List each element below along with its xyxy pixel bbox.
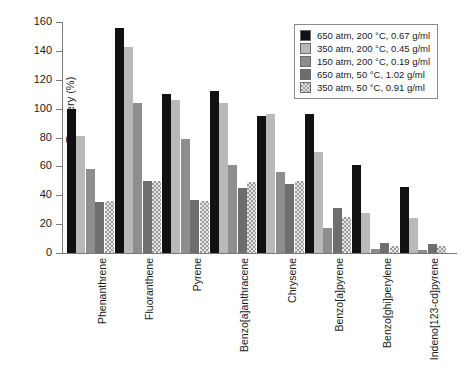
bar xyxy=(371,249,380,253)
y-axis-tick-label-wrap: 0 xyxy=(0,247,52,258)
bar xyxy=(323,228,332,253)
bar xyxy=(305,114,314,253)
bar xyxy=(276,172,285,253)
bar xyxy=(190,200,199,253)
bar xyxy=(352,165,361,253)
bar xyxy=(228,165,237,253)
x-axis-label: Fluoranthene xyxy=(143,258,155,320)
legend-swatch-icon xyxy=(300,30,311,41)
y-axis-tick-label-wrap: 160 xyxy=(0,16,52,27)
recovery-bar-chart: Recovery (%) 020406080100120140160 Phena… xyxy=(0,0,466,375)
y-axis-tick-label: 160 xyxy=(22,16,52,27)
bar xyxy=(86,169,95,253)
chart-legend: 650 atm, 200 °C, 0.67 g/ml350 atm, 200 °… xyxy=(294,24,438,99)
y-axis-tick-label: 140 xyxy=(22,45,52,56)
legend-item: 350 atm, 50 °C, 0.91 g/ml xyxy=(300,81,430,94)
legend-label: 150 atm, 200 °C, 0.19 g/ml xyxy=(317,56,430,67)
bar xyxy=(333,208,342,253)
legend-label: 350 atm, 200 °C, 0.45 g/ml xyxy=(317,43,430,54)
bar xyxy=(437,246,446,253)
y-axis-tick-label-wrap: 80 xyxy=(0,132,52,143)
bar xyxy=(285,184,294,253)
bar xyxy=(314,152,323,253)
bar xyxy=(418,250,427,253)
bar xyxy=(171,100,180,253)
y-axis-tick-label: 20 xyxy=(22,218,52,229)
legend-swatch-icon xyxy=(300,69,311,80)
bar xyxy=(219,103,228,253)
bar xyxy=(257,116,266,253)
y-axis-tick-label-wrap: 60 xyxy=(0,160,52,171)
bar xyxy=(95,202,104,253)
legend-label: 650 atm, 50 °C, 1.02 g/ml xyxy=(317,69,425,80)
bar xyxy=(124,47,133,253)
bar xyxy=(143,181,152,253)
bar xyxy=(115,28,124,253)
legend-item: 150 atm, 200 °C, 0.19 g/ml xyxy=(300,55,430,68)
bar xyxy=(390,246,399,253)
x-axis-label: Indeno[123-cd]pyrene xyxy=(428,258,440,360)
y-axis-tick-label-wrap: 120 xyxy=(0,74,52,85)
bar xyxy=(409,218,418,253)
bar xyxy=(380,243,389,253)
y-axis-tick-label: 40 xyxy=(22,189,52,200)
x-axis-label: Pyrene xyxy=(191,258,203,291)
y-axis-tick-label-wrap: 20 xyxy=(0,218,52,229)
bar xyxy=(266,114,275,253)
bar xyxy=(400,187,409,253)
y-axis-tick-label: 60 xyxy=(22,160,52,171)
bar xyxy=(210,91,219,253)
bar xyxy=(162,94,171,253)
bar xyxy=(133,103,142,253)
bar xyxy=(295,181,304,253)
x-axis-label: Benzo[ghi]perylene xyxy=(381,258,393,348)
legend-item: 650 atm, 200 °C, 0.67 g/ml xyxy=(300,29,430,42)
y-axis-tick-label: 0 xyxy=(22,247,52,258)
bar-group xyxy=(67,22,114,253)
bar xyxy=(76,136,85,253)
bar xyxy=(181,139,190,253)
y-axis-tick-label-wrap: 140 xyxy=(0,45,52,56)
y-axis-tick-label: 120 xyxy=(22,74,52,85)
bar xyxy=(152,181,161,253)
x-axis-line xyxy=(62,253,457,254)
legend-swatch-icon xyxy=(300,56,311,67)
bar xyxy=(428,244,437,253)
bar xyxy=(67,109,76,253)
bar-group xyxy=(162,22,209,253)
x-axis-label: Chrysene xyxy=(286,258,298,303)
y-axis-tick-label-wrap: 100 xyxy=(0,103,52,114)
bar xyxy=(342,217,351,253)
legend-item: 350 atm, 200 °C, 0.45 g/ml xyxy=(300,42,430,55)
bar xyxy=(361,213,370,253)
x-axis-label: Benzo[a]anthracene xyxy=(238,258,250,352)
y-axis-tick-label: 80 xyxy=(22,132,52,143)
legend-label: 650 atm, 200 °C, 0.67 g/ml xyxy=(317,30,430,41)
bar xyxy=(238,188,247,253)
bar-group xyxy=(210,22,257,253)
x-axis-label: Phenanthrene xyxy=(96,258,108,324)
y-axis-tick-label-wrap: 40 xyxy=(0,189,52,200)
legend-swatch-icon xyxy=(300,82,311,93)
x-axis-label: Benzo[a]pyrene xyxy=(333,258,345,332)
legend-item: 650 atm, 50 °C, 1.02 g/ml xyxy=(300,68,430,81)
legend-label: 350 atm, 50 °C, 0.91 g/ml xyxy=(317,82,425,93)
legend-swatch-icon xyxy=(300,43,311,54)
bar xyxy=(105,201,114,253)
bar xyxy=(200,201,209,253)
bar xyxy=(247,182,256,253)
bar-group xyxy=(115,22,162,253)
y-axis-tick-label: 100 xyxy=(22,103,52,114)
